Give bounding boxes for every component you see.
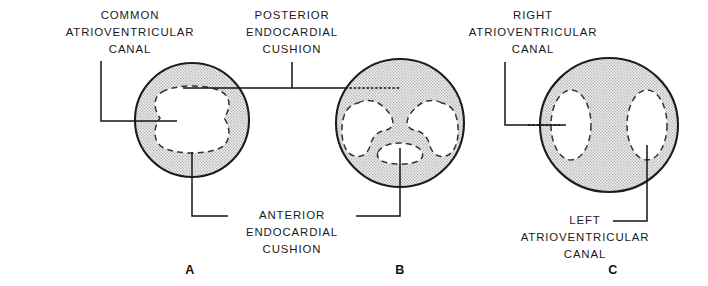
label-left-av-canal-line3: CANAL xyxy=(564,248,606,260)
label-anterior-cushion-line2: ENDOCARDIAL xyxy=(246,226,338,238)
label-common-av-canal-line2: ATRIOVENTRICULAR xyxy=(66,26,195,38)
label-posterior-cushion-line3: CUSHION xyxy=(263,43,322,55)
label-right-av-canal-line1: RIGHT xyxy=(513,9,553,21)
label-anterior-cushion-line3: CUSHION xyxy=(263,243,322,255)
endocardial-cushion-figure: COMMON ATRIOVENTRICULAR CANAL POSTERIOR … xyxy=(0,0,708,286)
label-right-av-canal-line2: ATRIOVENTRICULAR xyxy=(469,26,598,38)
label-common-av-canal: COMMON ATRIOVENTRICULAR CANAL xyxy=(66,9,195,55)
panel-a-lumen xyxy=(155,86,229,153)
label-posterior-cushion-line1: POSTERIOR xyxy=(254,9,329,21)
label-common-av-canal-line1: COMMON xyxy=(101,9,160,21)
label-posterior-endocardial-cushion: POSTERIOR ENDOCARDIAL CUSHION xyxy=(246,9,338,55)
figure-canvas: COMMON ATRIOVENTRICULAR CANAL POSTERIOR … xyxy=(0,0,708,286)
label-left-av-canal-line2: ATRIOVENTRICULAR xyxy=(521,231,650,243)
label-posterior-cushion-line2: ENDOCARDIAL xyxy=(246,26,338,38)
panel-letter-c: C xyxy=(608,263,618,277)
panel-letter-b: B xyxy=(395,263,405,277)
label-right-av-canal: RIGHT ATRIOVENTRICULAR CANAL xyxy=(469,9,598,55)
label-common-av-canal-line3: CANAL xyxy=(109,43,151,55)
label-anterior-endocardial-cushion: ANTERIOR ENDOCARDIAL CUSHION xyxy=(246,209,338,255)
label-left-av-canal-line1: LEFT xyxy=(569,214,600,226)
label-anterior-cushion-line1: ANTERIOR xyxy=(259,209,325,221)
label-right-av-canal-line3: CANAL xyxy=(512,43,554,55)
panel-letter-a: A xyxy=(185,263,195,277)
